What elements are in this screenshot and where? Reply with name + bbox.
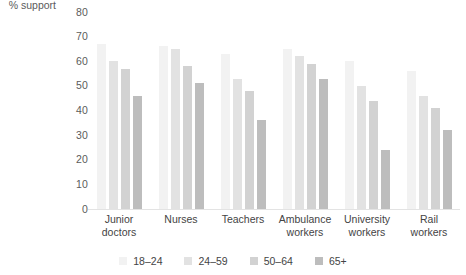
bar [407,71,416,209]
y-tick-label: 50 [56,80,88,91]
x-tick-label: Universityworkers [336,213,398,238]
bar [121,69,130,209]
y-tick-label: 40 [56,105,88,116]
y-tick-label: 30 [56,130,88,141]
bar-group [212,12,274,209]
bar [419,96,428,209]
bar-group [150,12,212,209]
bar [319,79,328,210]
bar [245,91,254,209]
bar [171,49,180,209]
legend-swatch-icon [315,257,323,265]
bar [381,150,390,209]
bar [431,108,440,209]
x-tick-label: Juniordoctors [88,213,150,238]
legend-item[interactable]: 24–59 [184,256,227,267]
legend-label: 24–59 [198,256,227,267]
bar [233,79,242,210]
legend-item[interactable]: 18–24 [119,256,162,267]
bar-chart-figure: % support 80706050403020100 Juniordoctor… [0,0,466,275]
bar [195,83,204,209]
x-axis-labels: JuniordoctorsNursesTeachersAmbulancework… [88,213,460,249]
bar-group [398,12,460,209]
bar [357,86,366,209]
chart-legend: 18–2424–5950–6465+ [0,253,466,269]
plot-area [88,12,460,209]
bar [307,64,316,209]
bar [97,44,106,209]
legend-item[interactable]: 65+ [315,256,347,267]
bar [257,120,266,209]
x-tick-label: Railworkers [398,213,460,238]
legend-item[interactable]: 50–64 [250,256,293,267]
y-tick-label: 80 [56,7,88,18]
bar [443,130,452,209]
legend-swatch-icon [119,257,127,265]
legend-label: 50–64 [264,256,293,267]
legend-swatch-icon [250,257,258,265]
y-axis-title: % support [2,0,56,11]
x-axis-baseline [88,209,460,210]
legend-label: 18–24 [133,256,162,267]
bar [109,61,118,209]
legend-swatch-icon [184,257,192,265]
bar [283,49,292,209]
x-tick-label: Teachers [212,213,274,226]
y-tick-label: 10 [56,179,88,190]
bar [345,61,354,209]
bar [221,54,230,209]
bar [369,101,378,209]
legend-label: 65+ [329,256,347,267]
x-tick-label: Nurses [150,213,212,226]
bar-group [336,12,398,209]
y-tick-label: 60 [56,56,88,67]
bar [159,46,168,209]
y-tick-label: 0 [56,204,88,215]
bar-group [88,12,150,209]
bar [295,56,304,209]
bar-group [274,12,336,209]
x-tick-label: Ambulanceworkers [274,213,336,238]
bar [133,96,142,209]
y-tick-label: 70 [56,31,88,42]
y-axis: 80706050403020100 [56,0,88,220]
bar [183,66,192,209]
y-tick-label: 20 [56,154,88,165]
